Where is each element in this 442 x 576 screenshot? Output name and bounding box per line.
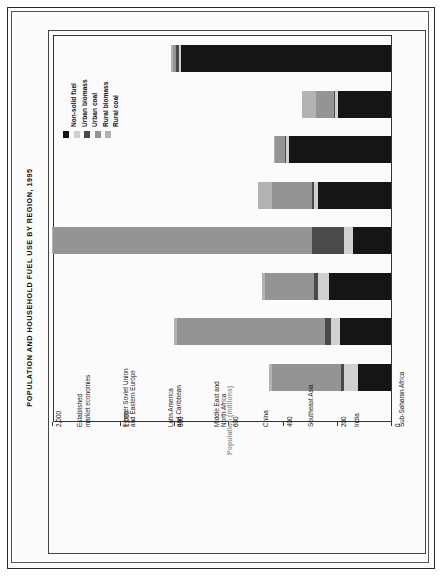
bar-segment-urban-coal [285, 136, 286, 163]
bar-segment-rural-biomass [177, 318, 325, 345]
bar-segment-non-solid-fuel [329, 273, 391, 300]
bar-segment-non-solid-fuel [338, 91, 391, 118]
bar-segment-urban-coal [334, 91, 335, 118]
bar-segment-non-solid-fuel [318, 182, 391, 209]
bar-segment-urban-coal [341, 364, 344, 391]
bar-segment-urban-biomass [344, 364, 359, 391]
axis-tick-label: 200 [340, 416, 347, 427]
plot-top-rule [53, 35, 391, 36]
bar-segment-urban-biomass [318, 273, 329, 300]
bar-segment-non-solid-fuel [181, 45, 391, 72]
value-axis-line [391, 35, 392, 421]
axis-tick [283, 422, 284, 426]
bar-segment-rural-coal [258, 182, 272, 209]
bar-segment-rural-coal [171, 45, 172, 72]
bar-segment-non-solid-fuel [289, 136, 391, 163]
bar-segment-rural-biomass [275, 136, 284, 163]
bar [49, 227, 391, 254]
legend-label: Rural biomass [102, 82, 109, 127]
axis-tick [337, 422, 338, 426]
bar-segment-urban-biomass [335, 91, 338, 118]
bar-segment-urban-biomass [179, 45, 181, 72]
axis-tick [52, 422, 53, 426]
bar-segment-rural-biomass [265, 273, 314, 300]
bar-segment-rural-coal [302, 91, 317, 118]
page-title: POPULATION AND HOUSEHOLD FUEL USE BY REG… [25, 168, 34, 406]
axis-tick-label: 400 [286, 416, 293, 427]
legend-label: Non-solid fuel [70, 83, 77, 127]
category-label: Sub-Saharan Africa [398, 372, 406, 427]
category-label: market economies [84, 375, 92, 427]
category-label: Established [76, 394, 84, 427]
bar-segment-rural-biomass [272, 182, 313, 209]
category-label: China [262, 410, 270, 427]
legend-label: Urban biomass [81, 79, 88, 127]
legend-swatch [74, 131, 80, 138]
bar-segment-rural-coal [174, 318, 177, 345]
bar-segment-rural-biomass [173, 45, 176, 72]
chart-title-container: POPULATION AND HOUSEHOLD FUEL USE BY REG… [12, 12, 46, 562]
bar-segment-rural-coal [269, 364, 272, 391]
plot-frame: 02004006008001,0002,000 Establishedmarke… [48, 30, 426, 554]
bar-segment-rural-coal [52, 227, 53, 254]
bar-segment-urban-coal [325, 318, 332, 345]
bar-segment-urban-coal [314, 273, 318, 300]
bar-segment-rural-biomass [53, 227, 312, 254]
bar-segment-urban-coal [312, 182, 313, 209]
bar [49, 182, 391, 209]
legend-swatch [95, 131, 101, 138]
legend-label: Urban coal [91, 93, 98, 127]
axis-tick [120, 422, 121, 426]
legend-swatch [63, 131, 69, 138]
axis-title: Population (millions) [226, 386, 233, 455]
bar [49, 45, 391, 72]
bar-segment-rural-coal [274, 136, 275, 163]
bar [49, 91, 391, 118]
bar [49, 273, 391, 300]
bar [49, 318, 391, 345]
bar-segment-rural-coal [262, 273, 265, 300]
bar-segment-non-solid-fuel [358, 364, 391, 391]
category-label: Latin America [167, 388, 175, 427]
bar-segment-urban-coal [176, 45, 179, 72]
plot-area: 02004006008001,0002,000 Establishedmarke… [49, 31, 425, 553]
bar [49, 136, 391, 163]
bar-segment-urban-biomass [286, 136, 289, 163]
bar-segment-urban-coal [312, 227, 343, 254]
legend-label: Rural coal [112, 95, 119, 127]
category-label: India [353, 413, 361, 427]
category-label: and Eastern Europe [129, 370, 137, 427]
chart-page: POPULATION AND HOUSEHOLD FUEL USE BY REG… [0, 0, 442, 576]
bar-segment-urban-biomass [314, 182, 318, 209]
bar-segment-rural-biomass [316, 91, 334, 118]
legend-swatch [84, 131, 90, 138]
axis-tick-label: 2,000 [55, 411, 62, 427]
axis-tick [391, 422, 392, 426]
bar-segment-non-solid-fuel [353, 227, 391, 254]
bar-segment-non-solid-fuel [340, 318, 391, 345]
bar-segment-urban-biomass [331, 318, 339, 345]
category-label: Southeast Asia [307, 384, 315, 427]
legend-swatch [105, 131, 111, 138]
category-label: and Caribbean [175, 385, 183, 427]
inner-border: POPULATION AND HOUSEHOLD FUEL USE BY REG… [11, 11, 429, 563]
bar-segment-urban-biomass [344, 227, 353, 254]
